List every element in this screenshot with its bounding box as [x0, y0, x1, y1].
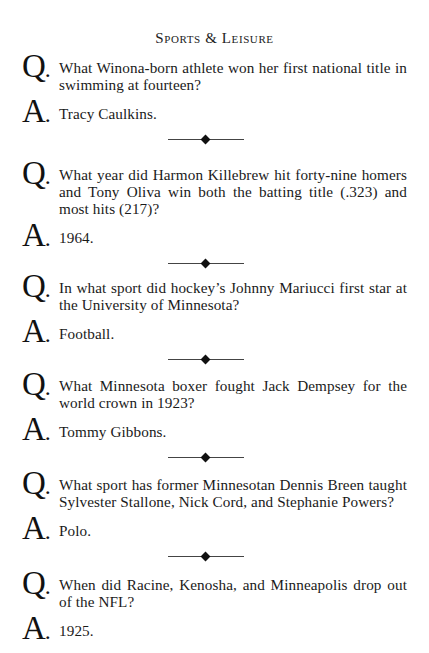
question-letter: Q. [22, 51, 50, 84]
diamond-rule-separator [168, 133, 244, 147]
answer-text: 1964. [59, 228, 407, 246]
question: Q. What sport has former Minnesotan Denn… [22, 476, 407, 510]
diamond-rule-separator [168, 257, 244, 271]
question: Q. In what sport did hockey’s Johnny Mar… [22, 279, 407, 313]
question-text: What year did Harmon Killebrew hit forty… [59, 166, 407, 217]
answer-letter: A. [22, 414, 50, 447]
answer-text: Polo. [59, 521, 407, 539]
question-letter: Q. [22, 369, 50, 402]
section-title: Sports & Leisure [0, 29, 429, 47]
qa-block-1: Q. What Winona-born athlete won her firs… [22, 59, 407, 161]
answer-letter: A. [22, 220, 50, 253]
book-page: Sports & Leisure Q. What Winona-born ath… [0, 0, 429, 653]
answer-text: Tracy Caulkins. [59, 104, 407, 122]
question-letter: Q. [22, 271, 50, 304]
answer-letter: A. [22, 513, 50, 546]
answer: A. Tracy Caulkins. [22, 104, 407, 122]
answer: A. Football. [22, 324, 407, 342]
answer: A. Tommy Gibbons. [22, 422, 407, 440]
qa-block-4: Q. What Minnesota boxer fought Jack Demp… [22, 377, 407, 479]
diamond-rule-separator [168, 353, 244, 367]
question-letter: Q. [22, 568, 50, 601]
answer: A. Polo. [22, 521, 407, 539]
question-text: What sport has former Minnesotan Dennis … [59, 476, 407, 510]
question-letter: Q. [22, 468, 50, 501]
qa-block-3: Q. In what sport did hockey’s Johnny Mar… [22, 279, 407, 381]
diamond-icon [200, 355, 210, 365]
question-text: What Winona-born athlete won her first n… [59, 59, 407, 93]
answer-text: Football. [59, 324, 407, 342]
question-text: In what sport did hockey’s Johnny Mariuc… [59, 279, 407, 313]
diamond-icon [200, 552, 210, 562]
answer-letter: A. [22, 613, 50, 646]
diamond-rule-separator [168, 451, 244, 465]
qa-block-5: Q. What sport has former Minnesotan Denn… [22, 476, 407, 578]
question: Q. What Minnesota boxer fought Jack Demp… [22, 377, 407, 411]
answer: A. 1925. [22, 621, 407, 639]
diamond-icon [200, 453, 210, 463]
diamond-icon [200, 259, 210, 269]
answer-letter: A. [22, 96, 50, 129]
question: Q. When did Racine, Kenosha, and Minneap… [22, 576, 407, 610]
diamond-rule-separator [168, 550, 244, 564]
question: Q. What Winona-born athlete won her firs… [22, 59, 407, 93]
answer-text: 1925. [59, 621, 407, 639]
qa-block-2: Q. What year did Harmon Killebrew hit fo… [22, 166, 407, 285]
answer-text: Tommy Gibbons. [59, 422, 407, 440]
qa-block-6: Q. When did Racine, Kenosha, and Minneap… [22, 576, 407, 639]
question-letter: Q. [22, 158, 50, 191]
answer-letter: A. [22, 316, 50, 349]
question: Q. What year did Harmon Killebrew hit fo… [22, 166, 407, 217]
question-text: When did Racine, Kenosha, and Minneapoli… [59, 576, 407, 610]
question-text: What Minnesota boxer fought Jack Dempsey… [59, 377, 407, 411]
answer: A. 1964. [22, 228, 407, 246]
diamond-icon [200, 135, 210, 145]
